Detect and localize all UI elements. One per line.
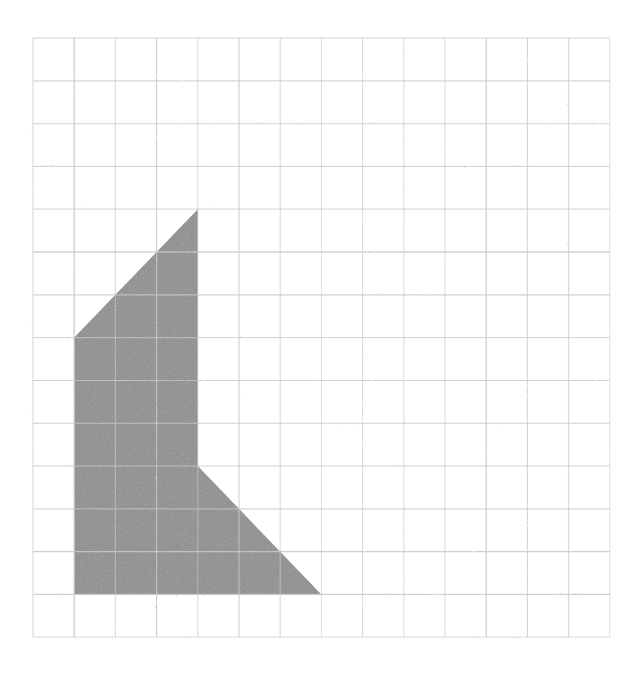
figure-canvas	[0, 0, 638, 674]
grid-figure-svg	[0, 0, 638, 674]
